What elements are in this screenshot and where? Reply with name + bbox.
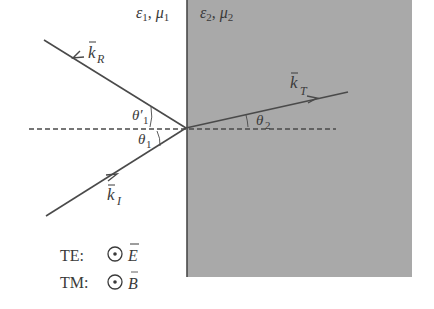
medium-1-label: ε1, μ1 bbox=[136, 4, 169, 23]
svg-text:2: 2 bbox=[265, 119, 271, 131]
svg-text:θ′: θ′ bbox=[132, 107, 143, 123]
svg-text:1: 1 bbox=[146, 138, 152, 150]
svg-text:θ: θ bbox=[138, 131, 146, 147]
svg-text:E: E bbox=[127, 247, 138, 264]
incident-wave-label: k I → bbox=[106, 179, 122, 208]
svg-text:TM:: TM: bbox=[60, 274, 88, 291]
svg-text:1: 1 bbox=[143, 114, 149, 126]
svg-text:B: B bbox=[128, 275, 138, 292]
medium-2-region bbox=[187, 0, 412, 277]
incident-ray bbox=[46, 128, 186, 216]
angle-arc-reflection bbox=[150, 107, 152, 127]
reflection-angle-label: θ′ 1 bbox=[132, 107, 149, 126]
svg-text:TE:: TE: bbox=[60, 247, 84, 264]
incidence-angle-label: θ 1 bbox=[138, 131, 152, 150]
svg-text:I: I bbox=[116, 194, 122, 208]
svg-text:R: R bbox=[96, 52, 105, 66]
refraction-diagram: ε1, μ1 ε2, μ2 k R → k T → k I → θ′ 1 θ 1… bbox=[0, 0, 434, 309]
legend-te: TE: E bbox=[60, 244, 139, 264]
legend-tm: TM: B bbox=[60, 272, 138, 292]
reflected-wave-label: k R → bbox=[87, 36, 105, 66]
reflected-arrow-icon bbox=[73, 51, 84, 58]
reflected-ray bbox=[44, 40, 186, 128]
svg-text:θ: θ bbox=[256, 112, 264, 128]
